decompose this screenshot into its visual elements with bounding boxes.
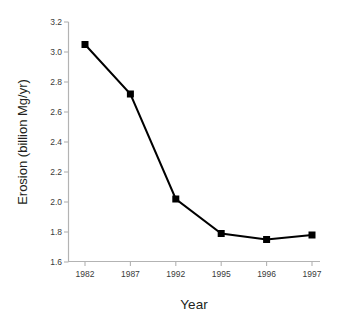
plot-area [68,22,320,262]
data-point-marker [309,232,316,239]
y-axis-tick-labels: 3.23.02.82.62.42.22.01.81.6 [28,22,62,262]
data-point-marker [127,91,134,98]
chart-canvas [68,22,320,262]
x-axis-title: Year [68,297,320,312]
axis-lines [68,22,320,262]
data-point-marker [172,196,179,203]
erosion-line-chart: Erosion (billion Mg/yr) 3.23.02.82.62.42… [0,0,341,325]
data-point-marker [218,230,225,237]
y-tick-label: 3.2 [34,18,62,26]
y-tick-label: 3.0 [34,48,62,56]
data-point-marker [82,41,89,48]
x-tick-label: 1997 [290,269,334,279]
y-tick-label: 1.6 [34,258,62,266]
y-tick-label: 2.4 [34,138,62,146]
x-tick-label: 1987 [108,269,152,279]
y-tick-label: 1.8 [34,228,62,236]
data-markers [82,41,316,243]
x-tick-label: 1995 [199,269,243,279]
x-axis-tick-labels: 198219871992199519961997 [68,269,320,281]
tick-marks [64,22,312,266]
x-tick-label: 1982 [63,269,107,279]
y-tick-label: 2.0 [34,198,62,206]
data-line [85,45,312,240]
x-tick-label: 1992 [154,269,198,279]
y-tick-label: 2.8 [34,78,62,86]
y-tick-label: 2.6 [34,108,62,116]
y-tick-label: 2.2 [34,168,62,176]
data-point-marker [263,236,270,243]
x-tick-label: 1996 [245,269,289,279]
